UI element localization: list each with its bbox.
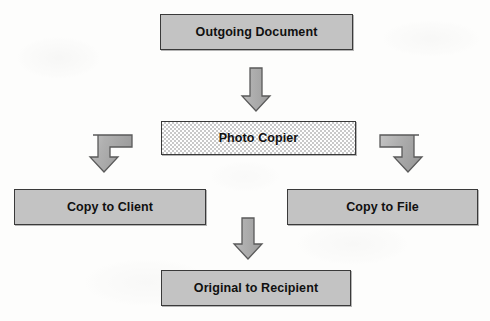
arrow-elbow-left-down-icon-copier-to-client xyxy=(88,127,144,177)
node-photo-copier-label: Photo Copier xyxy=(215,132,303,145)
node-original-to-recipient-label: Original to Recipient xyxy=(194,282,318,295)
node-original-to-recipient[interactable]: Original to Recipient xyxy=(161,270,351,306)
node-copy-to-file[interactable]: Copy to File xyxy=(287,189,478,225)
node-photo-copier[interactable]: Photo Copier xyxy=(161,121,356,155)
arrow-elbow-right-down-icon-copier-to-file xyxy=(368,127,424,177)
node-copy-to-file-label: Copy to File xyxy=(346,201,419,214)
node-copy-to-client[interactable]: Copy to Client xyxy=(14,189,206,225)
node-outgoing-document[interactable]: Outgoing Document xyxy=(160,14,353,50)
arrow-down-icon-copier-to-original xyxy=(230,216,266,262)
flowchart-canvas: Outgoing Document Photo Copier xyxy=(0,0,490,321)
node-copy-to-client-label: Copy to Client xyxy=(67,201,153,214)
node-outgoing-document-label: Outgoing Document xyxy=(196,26,318,39)
arrow-down-icon-outgoing-to-copier xyxy=(238,66,274,114)
